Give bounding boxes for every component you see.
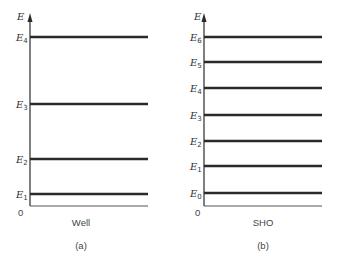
level-label-e4: E4: [15, 32, 28, 45]
origin-label: 0: [18, 207, 23, 218]
panel-xlabel: Well: [72, 217, 90, 228]
panel-caption: (a): [75, 240, 87, 251]
level-label-e4: E4: [189, 83, 202, 96]
axis-label-e: E: [193, 11, 202, 22]
level-label-e1: E1: [189, 161, 202, 174]
panel-xlabel: SHO: [253, 217, 274, 228]
axis-arrow-icon: [202, 13, 207, 22]
level-label-e1: E1: [15, 189, 28, 202]
level-label-e2: E2: [189, 136, 202, 149]
level-label-e0: E0: [189, 188, 202, 201]
level-label-e3: E3: [15, 99, 28, 112]
level-label-e6: E6: [189, 32, 202, 45]
axis-arrow-icon: [28, 13, 33, 22]
panel-well: E 0 E4 E3 E2 E1 Well (a): [15, 11, 148, 251]
axis-label-e: E: [16, 11, 25, 22]
level-label-e5: E5: [189, 57, 202, 70]
level-label-e3: E3: [189, 110, 202, 123]
panel-caption: (b): [257, 240, 269, 251]
energy-level-diagram: E 0 E4 E3 E2 E1 Well (a) E 0 E6 E5 E4 E3…: [0, 0, 340, 266]
origin-label: 0: [195, 207, 200, 218]
panel-sho: E 0 E6 E5 E4 E3 E2 E1 E0 SHO (b): [189, 11, 322, 251]
level-label-e2: E2: [15, 154, 28, 167]
